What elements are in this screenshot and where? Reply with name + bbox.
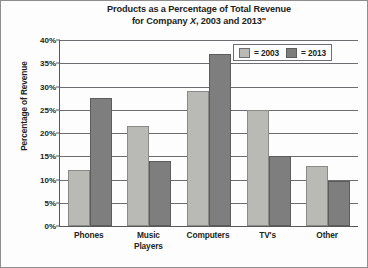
bar-2003 [68, 170, 90, 226]
y-axis-tick-label: 15% [40, 152, 56, 161]
x-axis-category-label-line: Music [137, 230, 160, 240]
x-axis-category-label-line: Players [119, 241, 179, 252]
legend-item-2003: = 2003 [239, 48, 279, 58]
chart-title-line-2: for Company X, 2003 and 2013" [39, 16, 359, 28]
legend-label-2003: = 2003 [254, 48, 279, 58]
y-axis-tick-label: 30% [40, 82, 56, 91]
legend-swatch-2013 [286, 48, 297, 58]
bar-2003 [187, 91, 209, 226]
chart-legend: = 2003= 2013 [233, 44, 332, 61]
y-axis-title: Percentage of Revenue [19, 31, 29, 181]
bar-group [120, 40, 180, 226]
x-axis-category-label: TV's [238, 230, 298, 252]
bar-2013 [90, 98, 112, 226]
y-axis-tick-label: 5% [44, 198, 56, 207]
x-axis-category-label-line: Phones [74, 230, 103, 240]
chart-title-line-2-prefix: for Company [132, 16, 190, 26]
y-axis-tick-label: 10% [40, 175, 56, 184]
bar-group [239, 40, 299, 226]
bar-group [298, 40, 358, 226]
chart-title-line-2-suffix: , 2003 and 2013" [196, 16, 266, 26]
bar-2003 [127, 126, 149, 226]
bar-2003 [306, 166, 328, 226]
bar-2013 [269, 156, 291, 226]
x-axis-category-label-line: Other [316, 230, 338, 240]
x-axis-category-label-line: Computers [187, 230, 230, 240]
bar-group [60, 40, 120, 226]
y-axis-tick-label: 20% [40, 129, 56, 138]
x-axis-category-label: Phones [59, 230, 119, 252]
x-axis-category-label: MusicPlayers [119, 230, 179, 252]
y-axis-tick-label: 0% [44, 222, 56, 231]
chart-figure: Products as a Percentage of Total Revenu… [0, 0, 368, 268]
bar-2013 [149, 161, 171, 226]
chart-title: Products as a Percentage of Total Revenu… [39, 4, 359, 27]
bar-2013 [209, 54, 231, 226]
legend-label-2013: = 2013 [301, 48, 326, 58]
legend-item-2013: = 2013 [286, 48, 326, 58]
x-axis-category-label-line: TV's [259, 230, 276, 240]
bar-2013 [328, 181, 350, 226]
bar-2003 [247, 110, 269, 226]
bar-groups [60, 40, 358, 226]
bar-group [179, 40, 239, 226]
y-axis-tick-label: 35% [40, 59, 56, 68]
x-axis-labels: PhonesMusicPlayersComputersTV'sOther [59, 230, 357, 252]
x-axis-category-label: Computers [178, 230, 238, 252]
plot-area: 40%35%30%25%20%15%10%5%0% [59, 40, 358, 227]
legend-swatch-2003 [239, 48, 250, 58]
y-axis-tick-label: 25% [40, 105, 56, 114]
chart-title-line-1: Products as a Percentage of Total Revenu… [39, 4, 359, 16]
x-axis-category-label: Other [297, 230, 357, 252]
y-axis-tick-label: 40% [40, 36, 56, 45]
